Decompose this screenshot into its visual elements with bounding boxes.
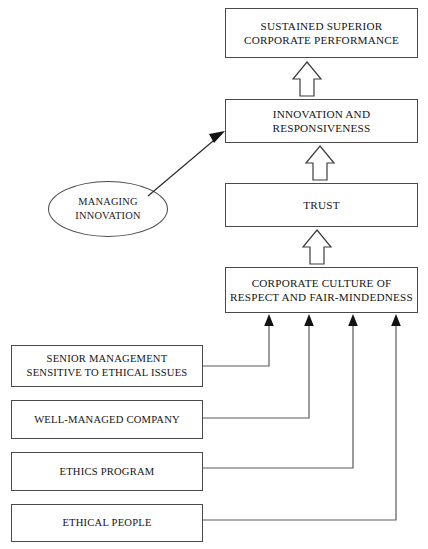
node-well-managed-company[interactable]: WELL-MANAGED COMPANY	[11, 400, 203, 439]
block-arrow-trust-to-innovation	[306, 146, 334, 180]
node-label: SENIOR MANAGEMENT SENSITIVE TO ETHICAL I…	[23, 352, 192, 379]
node-ethical-people[interactable]: ETHICAL PEOPLE	[11, 504, 203, 542]
node-label: ETHICAL PEOPLE	[58, 516, 155, 530]
node-label: ETHICS PROGRAM	[56, 465, 159, 479]
elbow-arrow-senior-to-culture	[203, 314, 274, 366]
node-trust[interactable]: TRUST	[225, 183, 418, 227]
node-label: CORPORATE CULTURE OF RESPECT AND FAIR-MI…	[226, 276, 417, 305]
block-arrow-innovation-to-sustained	[293, 62, 321, 96]
node-label: INNOVATION AND RESPONSIVENESS	[269, 107, 375, 136]
node-innovation-and-responsiveness[interactable]: INNOVATION AND RESPONSIVENESS	[225, 99, 418, 143]
node-sustained-superior-corporate-performance[interactable]: SUSTAINED SUPERIOR CORPORATE PERFORMANCE	[225, 8, 418, 58]
diagram-canvas: SUSTAINED SUPERIOR CORPORATE PERFORMANCE…	[0, 0, 428, 549]
node-label: TRUST	[299, 198, 343, 212]
elbow-arrow-ethicalpeople-to-culture	[203, 314, 401, 520]
node-label: MANAGING INNOVATION	[75, 195, 140, 222]
node-label: WELL-MANAGED COMPANY	[30, 413, 184, 427]
elbow-arrow-wellmanaged-to-culture	[203, 314, 314, 418]
node-label: SUSTAINED SUPERIOR CORPORATE PERFORMANCE	[240, 19, 403, 48]
node-senior-management-sensitive-to-ethical-issues[interactable]: SENIOR MANAGEMENT SENSITIVE TO ETHICAL I…	[11, 345, 203, 387]
elbow-arrow-ethicsprogram-to-culture	[203, 314, 358, 468]
node-managing-innovation[interactable]: MANAGING INNOVATION	[48, 181, 168, 237]
node-corporate-culture-of-respect-and-fair-mindedness[interactable]: CORPORATE CULTURE OF RESPECT AND FAIR-MI…	[225, 267, 418, 313]
diagonal-arrow-managing-to-innovation	[148, 131, 225, 196]
node-ethics-program[interactable]: ETHICS PROGRAM	[11, 452, 203, 491]
block-arrow-culture-to-trust	[303, 230, 331, 264]
